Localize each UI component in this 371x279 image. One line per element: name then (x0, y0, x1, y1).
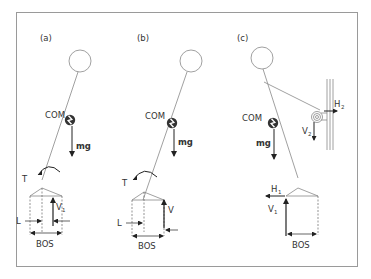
panel-label-b: (b) (137, 33, 149, 43)
v1-sub: 1 (274, 209, 278, 215)
torque-label: T (121, 178, 128, 188)
vertical-force-sub: 1 (62, 207, 66, 213)
gravity-label: mg (256, 138, 271, 148)
com-icon (268, 118, 278, 128)
h1-sub: 1 (278, 189, 282, 195)
h2-label: H (334, 99, 340, 109)
bos-label: BOS (36, 239, 54, 249)
com-icon (167, 118, 177, 128)
lever-label: L (117, 218, 122, 228)
h1-label: H (271, 184, 277, 194)
vertical-force-label: V (168, 205, 174, 215)
bos-label: BOS (292, 240, 310, 250)
h2-sub: 2 (341, 104, 345, 110)
torque-label: T (21, 174, 28, 184)
com-icon (65, 115, 75, 125)
panel-label-c: (c) (237, 33, 248, 43)
figure-canvas: (a) COM mg T V 1 L BOS (b) COM mg T (0, 0, 371, 279)
panel-label-a: (a) (40, 33, 52, 43)
gravity-label: mg (76, 141, 91, 151)
gravity-label: mg (178, 137, 193, 147)
bos-label: BOS (138, 241, 156, 251)
com-label: COM (45, 110, 65, 120)
v2-sub: 2 (308, 131, 312, 137)
lever-label: L (16, 216, 21, 226)
com-label: COM (242, 113, 262, 123)
com-label: COM (145, 111, 165, 121)
biomechanics-diagram: (a) COM mg T V 1 L BOS (b) COM mg T (0, 0, 371, 279)
